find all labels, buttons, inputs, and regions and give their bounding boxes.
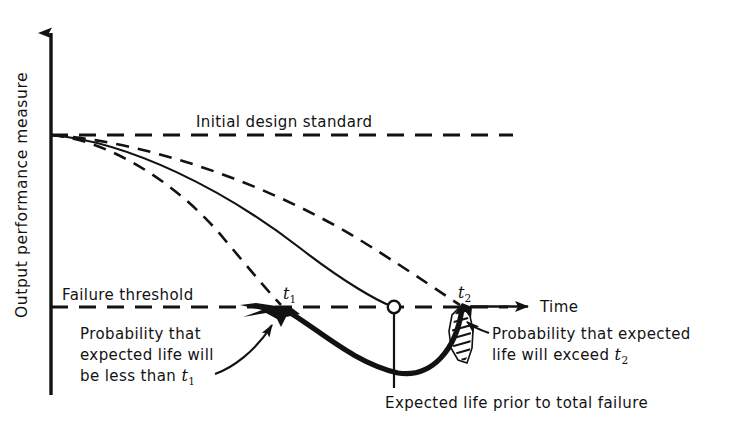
left-annotation-line-2: expected life will — [80, 346, 214, 364]
right-annotation-leader — [467, 322, 489, 333]
failure-threshold-label: Failure threshold — [62, 286, 194, 304]
left-annotation-line-3-text: be less than — [80, 367, 181, 385]
right-probability-annotation: Probability that expected life will exce… — [492, 325, 691, 366]
left-annotation-tail-subscript: 1 — [188, 375, 195, 387]
degradation-reliability-diagram: Output performance measure Time Initial … — [0, 0, 748, 434]
right-annotation-line-1: Probability that expected — [492, 325, 691, 343]
t2-marker-label: t2 — [458, 283, 471, 304]
expected-life-circle-marker — [388, 301, 400, 313]
left-annotation-line-3: be less than t1 — [80, 366, 195, 387]
initial-design-standard-label: Initial design standard — [196, 113, 373, 131]
degradation-curve-lower-bound — [51, 135, 281, 305]
right-annotation-line-2: life will exceed t2 — [492, 345, 628, 366]
failure-density-curve — [284, 309, 462, 374]
t2-subscript: 2 — [464, 292, 471, 304]
x-axis-label: Time — [539, 298, 578, 316]
expected-life-caption: Expected life prior to total failure — [385, 394, 648, 412]
degradation-curve-expected — [51, 135, 391, 306]
y-axis-label: Output performance measure — [13, 72, 31, 318]
left-probability-annotation: Probability that expected life will be l… — [80, 325, 214, 387]
left-annotation-line-1: Probability that — [80, 325, 201, 343]
degradation-curve-upper-bound — [51, 135, 460, 305]
right-annotation-line-2-text: life will exceed — [492, 346, 615, 364]
left-annotation-leader — [215, 325, 272, 374]
right-annotation-tail-subscript: 2 — [621, 354, 628, 366]
t1-subscript: 1 — [289, 293, 296, 305]
t1-marker-label: t1 — [283, 284, 296, 305]
